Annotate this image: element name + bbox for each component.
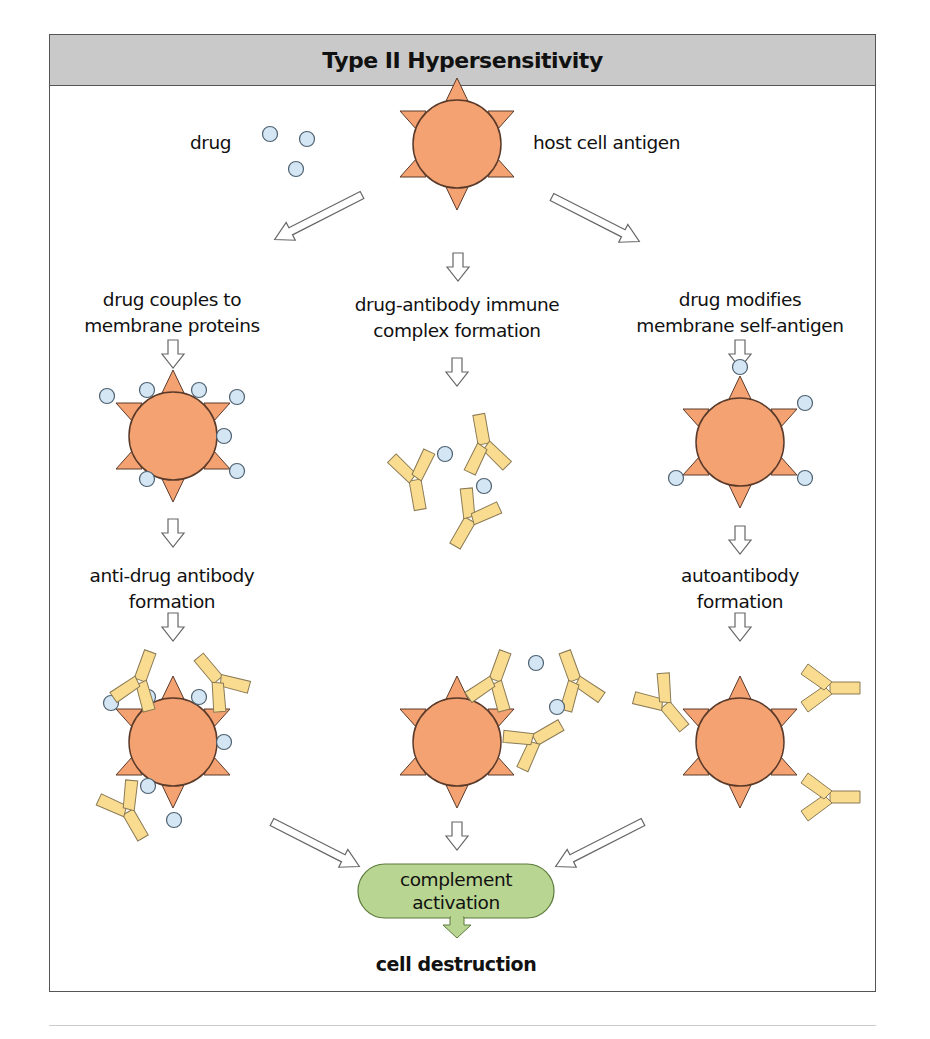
cell-destruction-label: cell destruction (376, 953, 537, 975)
complement-line2: activation (412, 892, 500, 913)
drug-molecule-icon (477, 479, 492, 494)
drug-molecule-icon (798, 396, 813, 411)
left-step2-line2: formation (129, 591, 215, 612)
flow-arrow-icon (547, 188, 643, 250)
center-step1-line1: drug-antibody immune (355, 294, 560, 315)
drug-molecule-icon (140, 472, 155, 487)
antibody-icon (455, 410, 513, 476)
drug-molecule-icon (230, 464, 245, 479)
drug-coupled-cell (100, 370, 245, 502)
drug-molecule-icon (300, 132, 315, 147)
host-cell-icon (400, 78, 514, 210)
host-cell-icon (683, 676, 797, 808)
host-cell-icon (116, 370, 230, 502)
drug-molecule-icon (289, 162, 304, 177)
drug-molecule-icon (192, 383, 207, 398)
flow-arrow-icon (446, 822, 468, 850)
right-step1-line2: membrane self-antigen (636, 315, 843, 336)
flow-arrow-icon (270, 186, 366, 248)
host-cell-icon (683, 376, 797, 508)
flow-arrow-icon (446, 358, 468, 386)
drug-molecule-icon (141, 779, 156, 794)
drug-molecule-icon (140, 383, 155, 398)
antibody-icon (386, 447, 444, 513)
flow-arrow-icon (267, 813, 363, 875)
flow-arrow-icon (551, 813, 647, 875)
flow-arrow-icon (447, 253, 469, 281)
antibody-coated-cell-left (93, 642, 255, 850)
drug-molecule-icon (230, 390, 245, 405)
modified-antigen-cell (669, 360, 813, 509)
drug-molecule-icon (100, 389, 115, 404)
flow-arrow-icon (162, 613, 184, 641)
drug-label: drug (190, 132, 231, 153)
drug-molecule-icon (733, 360, 748, 375)
left-step1-line2: membrane proteins (84, 315, 260, 336)
flow-arrow-icon (162, 519, 184, 547)
flow-arrow-icon (729, 526, 751, 554)
drug-molecule-icon (550, 700, 565, 715)
complement-activation-node: complement activation (358, 864, 554, 938)
hypersensitivity-diagram: drug host cell antigen drug couples to m… (0, 0, 930, 1039)
antibody-icon (801, 664, 860, 712)
drug-molecule-icon (438, 447, 453, 462)
right-step1-line1: drug modifies (679, 289, 801, 310)
drug-molecule-icon (669, 471, 684, 486)
drug-molecule-icon (529, 656, 544, 671)
autoantibody-bound-cell (628, 664, 860, 821)
right-step2-line2: formation (697, 591, 783, 612)
left-step1-line1: drug couples to (103, 289, 241, 310)
antibody-icon (801, 773, 860, 821)
immune-complex (386, 410, 512, 558)
drug-molecule-icon (798, 471, 813, 486)
antibody-icon (628, 667, 703, 743)
flow-arrow-icon (162, 340, 184, 368)
left-step2-line1: anti-drug antibody (90, 565, 255, 586)
antibody-icon (434, 483, 505, 558)
drug-molecule-icon (217, 429, 232, 444)
drug-molecule-icon (167, 813, 182, 828)
complement-line1: complement (400, 869, 512, 890)
right-step2-line1: autoantibody (681, 565, 799, 586)
drug-molecule-icon (263, 127, 278, 142)
center-step1-line2: complex formation (373, 320, 540, 341)
host-cell-antigen-label: host cell antigen (533, 132, 680, 153)
drug-molecule-icon (192, 690, 207, 705)
complex-bound-cell (400, 644, 607, 808)
flow-arrow-icon (443, 917, 471, 938)
flow-arrow-icon (729, 613, 751, 641)
drug-molecule-icon (217, 735, 232, 750)
